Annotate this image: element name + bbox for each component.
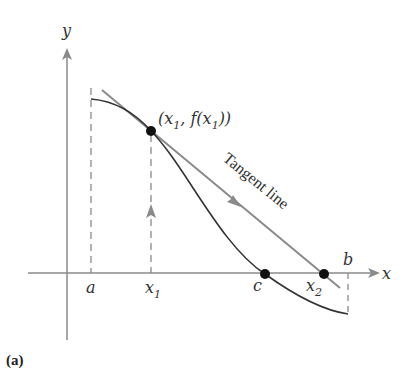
y-axis-label: y <box>61 21 72 40</box>
up-arrow-icon <box>146 204 156 218</box>
point-label: (x1, f(x1)) <box>158 109 231 132</box>
x-axis-label: x <box>382 264 391 283</box>
point-x1-fx1 <box>146 126 156 136</box>
panel-label: (a) <box>6 352 24 369</box>
tangent-line-label: Tangent line <box>219 149 292 213</box>
x-marker-x1: x1 <box>145 278 161 301</box>
x-marker-a: a <box>86 278 96 297</box>
newton-method-diagram: y x (x1, f(x1)) Tangent line a x1 c x2 b… <box>0 0 412 373</box>
x-marker-c: c <box>253 276 262 295</box>
x-marker-x2: x2 <box>306 276 322 299</box>
point-x2 <box>319 269 329 279</box>
x-marker-b: b <box>343 250 353 269</box>
